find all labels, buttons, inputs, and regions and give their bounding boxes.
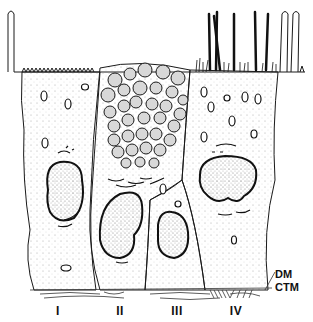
layer-label-dm: DM — [275, 268, 292, 280]
cilia — [209, 12, 268, 70]
cell-label-I: I — [56, 304, 60, 318]
cell-label-III: III — [171, 304, 183, 318]
right-microvilli — [280, 12, 304, 73]
cell-diagram: I II III IV DM CTM — [0, 0, 313, 322]
layer-label-ctm: CTM — [275, 281, 299, 293]
cell-label-IV: IV — [230, 304, 242, 318]
nucleus-IV — [200, 156, 257, 201]
left-microvillus — [8, 11, 14, 72]
diagram-drawing — [0, 0, 313, 322]
nucleus-III — [158, 212, 188, 258]
nucleus-I — [47, 162, 83, 221]
cell-label-II: II — [116, 304, 124, 318]
